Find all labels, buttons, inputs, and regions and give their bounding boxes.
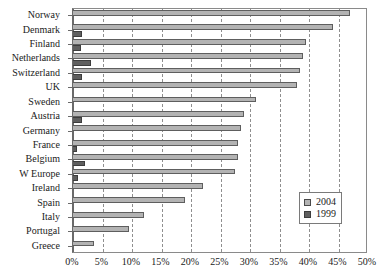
bar-group: [73, 9, 366, 23]
y-axis-tick: [68, 116, 72, 117]
bar-1999: [73, 175, 78, 181]
bar-2004: [73, 68, 300, 74]
chart-legend: 2004 1999: [299, 192, 342, 224]
legend-item-2004: 2004: [304, 196, 336, 208]
bar-group: [73, 153, 366, 167]
legend-label-2004: 2004: [316, 197, 336, 207]
bar-group: [73, 168, 366, 182]
x-axis-tick-label: 45%: [328, 256, 346, 267]
y-axis-label: Germany: [23, 126, 60, 136]
bar-2004: [73, 111, 244, 117]
legend-swatch-1999-icon: [304, 211, 311, 218]
legend-item-1999: 1999: [304, 208, 336, 220]
bar-2004: [73, 169, 235, 175]
x-axis-tick-label: 30%: [240, 256, 258, 267]
bar-group: [73, 23, 366, 37]
x-axis-tick-labels: 0%5%10%15%20%25%30%35%40%45%50%: [0, 256, 382, 272]
bar-1999: [73, 117, 82, 123]
bar-2004: [73, 53, 303, 59]
y-axis-label: Switzerland: [12, 68, 60, 78]
bar-2004: [73, 10, 350, 16]
y-axis-label: Austria: [31, 111, 60, 121]
y-axis-label: Belgium: [26, 154, 60, 164]
y-axis-tick: [68, 58, 72, 59]
bar-1999: [73, 74, 82, 80]
bar-2004: [73, 24, 333, 30]
bar-2004: [73, 82, 297, 88]
y-axis-label: Finland: [29, 39, 60, 49]
x-axis-tick-label: 20%: [181, 256, 199, 267]
x-axis-tick-label: 10%: [122, 256, 140, 267]
y-axis-label: Sweden: [28, 97, 60, 107]
x-axis-tick-label: 5%: [95, 256, 108, 267]
bar-2004: [73, 39, 306, 45]
bar-1999: [73, 60, 91, 66]
x-axis-tick-label: 0%: [65, 256, 78, 267]
bar-group: [73, 95, 366, 109]
bar-group: [73, 139, 366, 153]
y-axis-category-labels: NorwayDenmarkFinlandNetherlandsSwitzerla…: [0, 8, 66, 253]
bar-2004: [73, 154, 238, 160]
bar-group: [73, 110, 366, 124]
x-axis-tick-label: 50%: [358, 256, 376, 267]
y-axis-tick: [68, 44, 72, 45]
bar-group: [73, 240, 366, 253]
y-axis-tick: [68, 231, 72, 232]
y-axis-label: Greece: [32, 241, 60, 251]
y-axis-tick: [68, 73, 72, 74]
bar-2004: [73, 183, 203, 189]
legend-label-1999: 1999: [316, 209, 336, 219]
bar-1999: [73, 161, 85, 167]
y-axis-tick: [68, 188, 72, 189]
bar-group: [73, 67, 366, 81]
y-axis-tick: [68, 102, 72, 103]
y-axis-tick: [68, 131, 72, 132]
y-axis-tick: [68, 174, 72, 175]
x-axis-tick-label: 35%: [269, 256, 287, 267]
y-axis-tick: [68, 30, 72, 31]
x-axis-tick-label: 15%: [151, 256, 169, 267]
y-axis-tick: [68, 159, 72, 160]
bar-2004: [73, 241, 94, 247]
y-axis-label: Spain: [37, 198, 60, 208]
y-axis-label: Norway: [28, 10, 60, 20]
bar-1999: [73, 146, 77, 152]
bar-2004: [73, 125, 241, 131]
legend-swatch-2004-icon: [304, 199, 311, 206]
bar-group: [73, 225, 366, 239]
bar-1999: [73, 31, 82, 37]
x-axis-tick-label: 25%: [210, 256, 228, 267]
bar-2004: [73, 140, 238, 146]
bar-group: [73, 38, 366, 52]
y-axis-label: Netherlands: [12, 53, 60, 63]
y-axis-label: Italy: [42, 212, 60, 222]
bar-2004: [73, 197, 185, 203]
y-axis-label: UK: [46, 82, 60, 92]
bar-group: [73, 52, 366, 66]
bar-group: [73, 124, 366, 138]
y-axis-tick: [68, 15, 72, 16]
bar-2004: [73, 226, 129, 232]
y-axis-tick: [68, 246, 72, 247]
y-axis-label: W Europe: [19, 169, 60, 179]
y-axis-label: France: [33, 140, 60, 150]
y-axis-tick: [68, 217, 72, 218]
y-axis-tick: [68, 87, 72, 88]
bar-group: [73, 81, 366, 95]
y-axis-label: Ireland: [32, 183, 60, 193]
x-axis-tick-label: 40%: [299, 256, 317, 267]
bar-1999: [73, 45, 81, 51]
y-axis-tick: [68, 145, 72, 146]
y-axis-label: Portugal: [26, 226, 60, 236]
y-axis-tick: [68, 203, 72, 204]
bar-chart: NorwayDenmarkFinlandNetherlandsSwitzerla…: [0, 0, 382, 279]
bar-2004: [73, 212, 144, 218]
y-axis-label: Denmark: [23, 25, 60, 35]
bar-2004: [73, 97, 256, 103]
